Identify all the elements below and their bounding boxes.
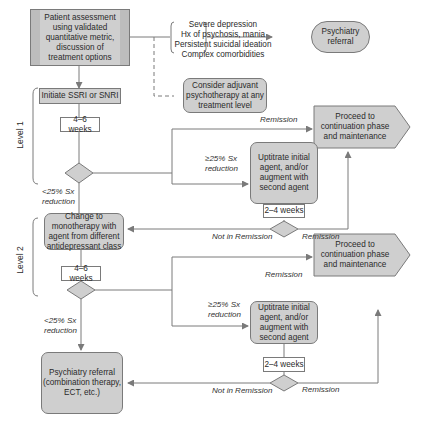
decision-diamond-l2 xyxy=(67,281,95,299)
decision-diamond-l1b xyxy=(270,221,298,237)
level-1-label: Level 1 xyxy=(15,121,25,148)
decision-diamond-l1 xyxy=(65,163,93,183)
stripe-left xyxy=(31,10,40,65)
uptitrate-box-l2: Uptitrate initial agent, and/or augment … xyxy=(250,301,318,344)
lt25-label-l2: <25% Sx reduction xyxy=(44,316,80,336)
change-monotherapy-box: Change to monotherapy with agent from di… xyxy=(44,213,124,250)
wait-2-4-weeks-l1: 2–4 weeks xyxy=(263,204,305,218)
proceed-box-l2: Proceed to continuation phase and mainte… xyxy=(314,234,396,276)
initiate-ssri-snri-box: Initiate SSRI or SNRI xyxy=(39,88,121,104)
assessment-box: Patient assessment using validated quant… xyxy=(30,9,130,66)
uptitrate-box-l1: Uptitrate initial agent, and/or augment … xyxy=(250,142,318,204)
risk-factors-list: Severe depression Hx of psychosis, mania… xyxy=(168,20,278,60)
proceed-box-l1: Proceed to continuation phase and mainte… xyxy=(314,106,396,148)
ge25-label-l2: ≥25% Sx reduction xyxy=(208,300,250,320)
lt25-label-l1: <25% Sx reduction xyxy=(42,187,78,207)
remission-label-l2b: Remission xyxy=(302,385,339,395)
remission-label-l2: Remission xyxy=(265,270,302,280)
remission-label-l1: Remission xyxy=(260,115,297,125)
not-in-remission-label-l2: Not in Remission xyxy=(212,386,272,396)
wait-4-6-weeks-l1: 4–6 weeks xyxy=(60,117,100,132)
decision-diamond-l2b xyxy=(270,375,298,391)
ge25-label-l1: ≥25% Sx reduction xyxy=(205,154,247,174)
stripe-right xyxy=(120,10,129,65)
adjuvant-psychotherapy-box: Consider adjuvant psychotherapy at any t… xyxy=(183,78,267,113)
wait-2-4-weeks-l2: 2–4 weeks xyxy=(263,357,305,372)
psychiatry-referral-bottom: Psychiatry referral (combination therapy… xyxy=(41,352,123,414)
not-in-remission-label-l1: Not in Remission xyxy=(212,232,272,242)
psychiatry-referral-top: Psychiatry referral xyxy=(311,21,370,53)
level-2-label: Level 2 xyxy=(15,246,25,273)
wait-4-6-weeks-l2: 4–6 weeks xyxy=(61,266,101,281)
